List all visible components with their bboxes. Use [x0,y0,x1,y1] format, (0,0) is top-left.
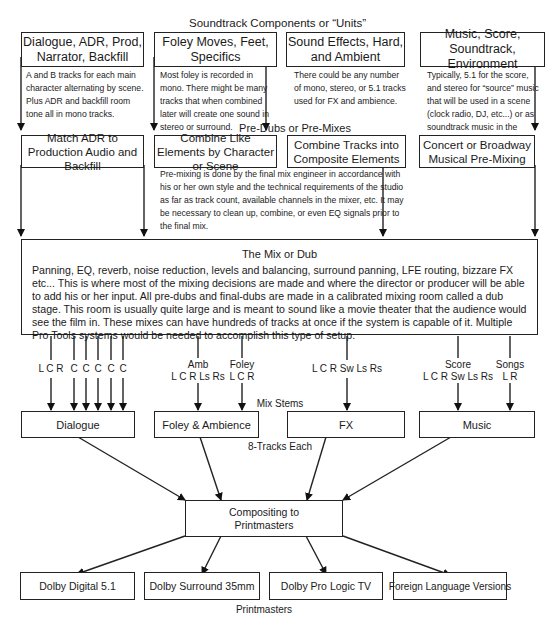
predub-foley-label: Combine Like Elements by Character or Sc… [155,131,276,173]
channel-title-score: Score [433,359,483,370]
predubs-description: Pre-mixing is done by the final mix engi… [160,168,405,233]
printmasters-label: Printmasters [214,604,314,615]
stem-fx-label: FX [339,419,353,431]
channel-label-fx: L C R Sw Ls Rs [307,363,387,374]
stem-dialogue-box: Dialogue [21,411,135,438]
stem-dialogue-label: Dialogue [56,419,99,431]
channel-label-dialogue-c5: C [118,363,128,374]
predub-music-box: Concert or Broadway Musical Pre-Mixing [419,135,535,168]
compositing-box: Compositing to Printmasters [185,500,343,537]
predub-sfx-label: Combine Tracks into Composite Elements [288,138,405,166]
stem-music-box: Music [419,411,535,438]
channel-label-foley: L C R [222,371,262,382]
mix-box: The Mix or Dub Panning, EQ, reverb, nois… [21,239,538,335]
mix-stems-label: Mix Stems [250,398,310,409]
channel-label-dialogue-c3: C [93,363,103,374]
predub-sfx-box: Combine Tracks into Composite Elements [287,135,406,168]
channel-title-songs: Songs [490,359,530,370]
channel-title-amb: Amb [178,359,218,370]
stems-note: 8-Tracks Each [230,441,330,452]
channel-label-songs: L R [490,371,530,382]
printmaster-foreign-box: Foreign Language Versions [393,572,507,600]
unit-foley-heading: Foley Moves, Feet, Specifics [155,35,276,65]
unit-sfx-heading: Sound Effects, Hard, and Ambient [287,35,404,65]
channel-label-dialogue-lcr: L C R [36,363,66,374]
unit-dialogue-box: Dialogue, ADR, Prod, Narrator, Backfill [21,32,144,67]
unit-music-heading: Music, Score, Soundtrack, Environment [421,27,544,72]
channel-label-dialogue-c1: C [69,363,79,374]
stem-foley-ambience-box: Foley & Ambience [154,411,259,438]
stem-foley-ambience-label: Foley & Ambience [162,419,251,431]
printmaster-pro-logic-label: Dolby Pro Logic TV [281,580,371,592]
channel-label-dialogue-c2: C [81,363,91,374]
channel-title-foley: Foley [222,359,262,370]
mix-description: Panning, EQ, reverb, noise reduction, le… [32,264,527,342]
unit-sfx-box: Sound Effects, Hard, and Ambient [286,32,405,67]
predub-dialogue-label: Match ADR to Production Audio and Backfi… [22,131,143,173]
unit-foley-box: Foley Moves, Feet, Specifics [154,32,277,67]
printmaster-foreign-label: Foreign Language Versions [389,581,511,592]
unit-dialogue-description: A and B tracks for each main character a… [26,69,144,121]
compositing-label: Compositing to Printmasters [216,506,312,532]
channel-label-dialogue-c4: C [106,363,116,374]
channel-label-amb: L C R Ls Rs [168,371,228,382]
printmaster-dolby-digital-label: Dolby Digital 5.1 [39,580,115,592]
predub-dialogue-box: Match ADR to Production Audio and Backfi… [21,135,144,168]
unit-sfx-description: There could be any number of mono, stere… [294,69,406,108]
stem-music-label: Music [463,419,492,431]
predub-foley-box: Combine Like Elements by Character or Sc… [154,135,277,168]
printmaster-dolby-digital-box: Dolby Digital 5.1 [20,572,135,600]
printmaster-dolby-surround-box: Dolby Surround 35mm [144,572,260,600]
stem-fx-box: FX [287,411,405,438]
unit-dialogue-heading: Dialogue, ADR, Prod, Narrator, Backfill [22,35,143,65]
channel-label-score: L C R Sw Ls Rs [418,371,498,382]
mix-title: The Mix or Dub [22,248,537,260]
printmaster-dolby-surround-label: Dolby Surround 35mm [149,580,254,592]
unit-music-box: Music, Score, Soundtrack, Environment [420,32,545,67]
printmaster-pro-logic-box: Dolby Pro Logic TV [269,572,383,600]
predub-music-label: Concert or Broadway Musical Pre-Mixing [420,138,534,166]
